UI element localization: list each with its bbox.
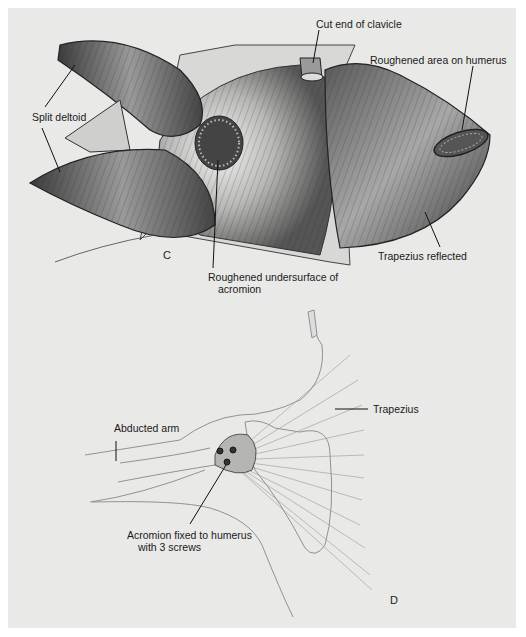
label-roughened-humerus: Roughened area on humerus [370, 54, 507, 66]
label-roughened-acromion-1: Roughened undersurface of [208, 271, 338, 283]
label-cut-end-clavicle: Cut end of clavicle [316, 18, 402, 30]
label-split-deltoid: Split deltoid [32, 111, 86, 123]
panel-letter-c: C [163, 249, 171, 261]
label-trapezius: Trapezius [373, 403, 419, 415]
label-roughened-acromion-2: acromion [218, 283, 261, 295]
label-acromion-fixed-1: Acromion fixed to humerus [127, 529, 252, 541]
label-acromion-fixed-2: with 3 screws [138, 541, 201, 553]
panel-letter-d: D [390, 594, 398, 606]
label-trapezius-reflected: Trapezius reflected [378, 250, 467, 262]
figure-d-illustration [0, 0, 526, 637]
label-abducted-arm: Abducted arm [114, 422, 179, 434]
